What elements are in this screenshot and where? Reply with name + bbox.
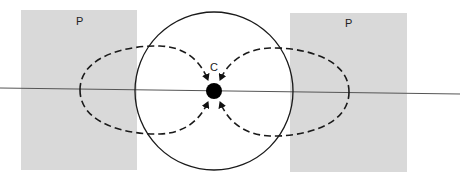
center-label: C <box>210 61 218 73</box>
field-diagram: C P P <box>0 0 460 182</box>
right-region-label: P <box>345 17 352 29</box>
center-dot <box>206 83 222 99</box>
left-region-label: P <box>76 15 83 27</box>
